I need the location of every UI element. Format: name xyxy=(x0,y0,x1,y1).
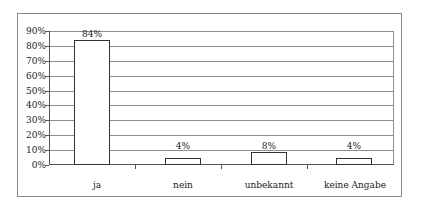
y-tick-label: 70% xyxy=(26,56,46,66)
plot-right-border xyxy=(393,31,394,165)
value-label: 84% xyxy=(72,29,112,39)
y-tick xyxy=(45,150,49,151)
y-tick-label: 80% xyxy=(26,41,46,51)
y-axis-labels: 0% 10% 20% 30% 40% 50% 60% 70% 80% 90% xyxy=(14,31,46,165)
y-axis xyxy=(49,31,50,165)
bar-nein xyxy=(165,158,201,165)
category-label: ja xyxy=(52,180,142,190)
x-tick xyxy=(307,165,308,169)
y-tick-label: 40% xyxy=(26,100,46,110)
bar-ja xyxy=(74,40,110,165)
y-tick-label: 20% xyxy=(26,130,46,140)
value-label: 4% xyxy=(163,141,203,151)
value-label: 4% xyxy=(334,141,374,151)
y-tick xyxy=(45,76,49,77)
y-tick xyxy=(45,61,49,62)
plot-area: 84% 4% 8% 4% xyxy=(49,31,394,165)
category-label: nein xyxy=(138,180,228,190)
y-tick xyxy=(45,31,49,32)
y-tick-label: 10% xyxy=(26,145,46,155)
y-tick xyxy=(45,91,49,92)
y-tick-label: 50% xyxy=(26,86,46,96)
bar-unbekannt xyxy=(251,152,287,165)
x-tick xyxy=(221,165,222,169)
x-tick xyxy=(135,165,136,169)
y-tick-label: 0% xyxy=(32,160,46,170)
y-tick-label: 60% xyxy=(26,71,46,81)
y-tick xyxy=(45,46,49,47)
y-tick xyxy=(45,135,49,136)
y-tick-label: 30% xyxy=(26,115,46,125)
y-tick xyxy=(45,120,49,121)
bar-keine-angabe xyxy=(336,158,372,165)
category-label: keine Angabe xyxy=(310,180,400,190)
category-label: unbekannt xyxy=(224,180,314,190)
y-tick-label: 90% xyxy=(26,26,46,36)
y-tick xyxy=(45,105,49,106)
y-tick xyxy=(45,165,49,166)
value-label: 8% xyxy=(249,141,289,151)
